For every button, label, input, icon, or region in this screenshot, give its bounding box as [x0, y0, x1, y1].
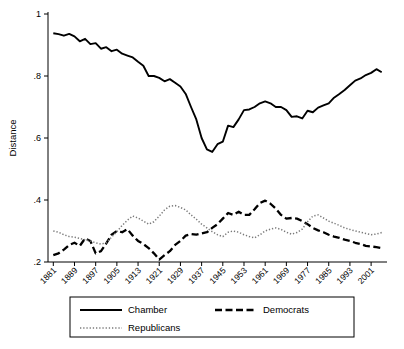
x-tick-label: 1929: [165, 265, 186, 286]
series-line-chamber: [53, 33, 381, 152]
x-tick-label: 2001: [356, 265, 377, 286]
x-tick-label: 1953: [228, 265, 249, 286]
chart-legend: ChamberDemocratsRepublicans: [70, 297, 354, 337]
x-tick-label: 1889: [59, 265, 80, 286]
x-tick-label: 1913: [123, 265, 144, 286]
y-tick-label: .4: [33, 195, 41, 205]
y-tick-label: .2: [33, 257, 41, 267]
x-tick-label: 1945: [207, 265, 228, 286]
data-series: [53, 33, 381, 259]
x-tick-label: 1937: [186, 265, 207, 286]
series-line-republicans: [53, 206, 381, 244]
legend-label-chamber: Chamber: [128, 304, 167, 315]
x-tick-label: 1961: [250, 265, 271, 286]
x-tick-label: 1921: [144, 265, 165, 286]
x-tick-label: 1881: [38, 265, 59, 286]
x-tick-label: 1985: [313, 265, 334, 286]
series-line-democrats: [53, 201, 381, 260]
x-tick-label: 1977: [292, 265, 313, 286]
legend-label-republicans: Republicans: [128, 322, 181, 333]
x-tick-label: 1897: [80, 265, 101, 286]
x-tick-label: 1905: [101, 265, 122, 286]
y-tick-label: .6: [33, 133, 41, 143]
y-tick-label: 1: [36, 9, 41, 19]
x-axis-ticks: 1881188918971905191319211929193719451953…: [38, 262, 376, 286]
y-axis-ticks: .2.4.6.81: [33, 9, 48, 267]
chart-figure: .2.4.6.81 188118891897190519131921192919…: [0, 0, 404, 349]
y-axis-label: Distance: [7, 120, 18, 157]
x-tick-label: 1993: [334, 265, 355, 286]
legend-box: [70, 297, 354, 337]
chart-canvas: .2.4.6.81 188118891897190519131921192919…: [0, 0, 404, 349]
y-tick-label: .8: [33, 71, 41, 81]
x-tick-label: 1969: [271, 265, 292, 286]
legend-label-democrats: Democrats: [263, 304, 309, 315]
axis-lines: [48, 12, 387, 262]
